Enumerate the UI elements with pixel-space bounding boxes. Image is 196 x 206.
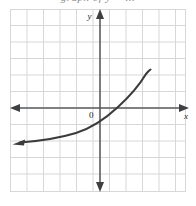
origin-label: 0 [89, 110, 94, 120]
y-axis-label: y [87, 11, 92, 21]
grid-background [10, 9, 186, 192]
x-axis-label: x [183, 111, 188, 121]
exponential-graph-figure: graph of y = ... [0, 0, 196, 206]
coordinate-plane: y x 0 [0, 0, 196, 206]
